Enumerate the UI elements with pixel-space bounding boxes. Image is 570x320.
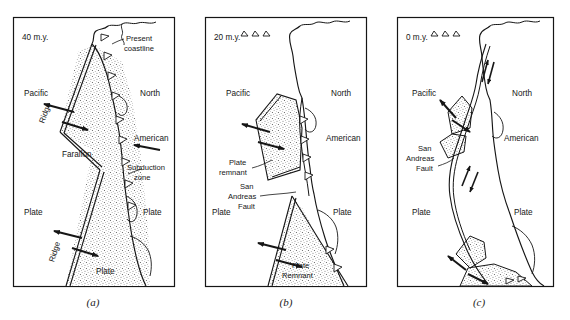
label-subduction-zone-line2-a: zone	[134, 173, 150, 182]
age-label-c: 0 m.y.	[406, 33, 428, 42]
label-san-andreas-line1-b: San	[240, 182, 254, 191]
label-plate-remnant-line2-b: remnant	[219, 168, 248, 177]
label-american-c: American	[504, 134, 539, 143]
label-plate-left-b: Plate	[212, 208, 231, 217]
label-san-andreas-line3-c: Fault	[416, 164, 434, 173]
three-panel-plate-tectonics-figure: 40 m.y. Pacific Plate North American Pla…	[0, 0, 570, 320]
label-north-a: North	[140, 89, 160, 98]
label-plate-left-a: Plate	[24, 208, 43, 217]
label-north-c: North	[512, 89, 532, 98]
label-pacific-a: Pacific	[24, 89, 48, 98]
label-san-andreas-line2-b: Andreas	[228, 192, 256, 201]
panel-caption-c: (c)	[449, 296, 509, 308]
label-plate-farallon-a: Plate	[96, 267, 115, 276]
label-plate-right-c: Plate	[514, 208, 533, 217]
label-plate-remnant-low-line1-b: Plate	[292, 261, 309, 270]
panel-a: 40 m.y. Pacific Plate North American Pla…	[14, 18, 175, 287]
label-pacific-c: Pacific	[412, 89, 436, 98]
label-plate-right-a: Plate	[143, 208, 162, 217]
label-plate-remnant-low-line2-b: Remnant	[282, 271, 314, 280]
label-farallon-a: Farallon	[62, 150, 92, 159]
label-plate-left-c: Plate	[412, 208, 431, 217]
label-plate-remnant-line1-b: Plate	[229, 158, 246, 167]
label-san-andreas-line1-c: San	[418, 144, 432, 153]
label-san-andreas-line3-b: Fault	[238, 202, 256, 211]
label-present-coastline-line1-a: Present	[126, 34, 153, 43]
label-san-andreas-line2-c: Andreas	[406, 154, 434, 163]
panel-caption-a: (a)	[63, 296, 123, 308]
age-label-a: 40 m.y.	[22, 33, 48, 42]
label-american-b: American	[326, 134, 361, 143]
label-american-a: American	[134, 134, 169, 143]
label-present-coastline-line2-a: coastline	[124, 44, 154, 53]
panel-b: 20 m.y. Pacific Plate North American Pla…	[206, 18, 367, 287]
age-label-b: 20 m.y.	[214, 33, 240, 42]
panel-caption-b: (b)	[256, 296, 316, 308]
label-plate-right-b: Plate	[333, 208, 352, 217]
label-subduction-zone-line1-a: Subduction	[127, 163, 165, 172]
label-pacific-b: Pacific	[226, 89, 250, 98]
panel-c: 0 m.y. Pacific Plate North American Plat…	[398, 18, 554, 287]
label-north-b: North	[331, 89, 351, 98]
